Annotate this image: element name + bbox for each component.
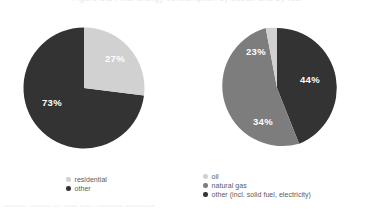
legend-swatch-other-fuel-icon bbox=[203, 192, 208, 197]
pie-by-fuel-svg: 44% 34% 23% bbox=[190, 0, 374, 175]
legend-by-fuel: oil natural gas other (incl. solid fuel,… bbox=[203, 172, 311, 199]
legend-item-natural-gas: natural gas bbox=[203, 181, 311, 190]
legend-swatch-oil-icon bbox=[203, 174, 208, 179]
legend-item-residential: residential bbox=[66, 175, 107, 184]
figure-two-pie-charts: Figure 3.2 Final energy consumption by s… bbox=[0, 0, 374, 213]
slice-label-other-fuel: 44% bbox=[300, 74, 320, 85]
legend-swatch-residential-icon bbox=[66, 177, 71, 182]
pie-by-sector-svg: 27% 73% bbox=[0, 0, 190, 175]
cropped-note-bottom-text: Source: based on data from national stat… bbox=[2, 205, 154, 209]
legend-label-oil: oil bbox=[212, 172, 219, 181]
legend-item-other: other bbox=[66, 184, 107, 193]
legend-label-other-fuel: other (incl. solid fuel, electricity) bbox=[212, 190, 312, 199]
slice-label-natural-gas: 34% bbox=[253, 116, 273, 127]
pie-chart-by-sector: 27% 73% bbox=[0, 0, 190, 175]
legend-swatch-other-icon bbox=[66, 186, 71, 191]
slice-label-other: 73% bbox=[42, 97, 62, 108]
slice-label-residential: 27% bbox=[105, 53, 125, 64]
legend-item-oil: oil bbox=[203, 172, 311, 181]
legend-by-sector: residential other bbox=[66, 175, 107, 193]
cropped-note-bottom: Source: based on data from national stat… bbox=[2, 205, 202, 213]
legend-item-other-fuel: other (incl. solid fuel, electricity) bbox=[203, 190, 311, 199]
legend-label-residential: residential bbox=[75, 175, 107, 184]
legend-label-natural-gas: natural gas bbox=[212, 181, 247, 190]
legend-swatch-natural-gas-icon bbox=[203, 183, 208, 188]
pie-chart-by-fuel: 44% 34% 23% bbox=[190, 0, 374, 175]
slice-label-oil: 23% bbox=[246, 46, 266, 57]
legend-label-other: other bbox=[75, 184, 91, 193]
